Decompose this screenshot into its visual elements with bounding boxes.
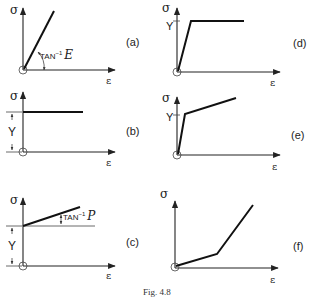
- sigma-label: σ: [160, 187, 168, 201]
- epsilon-label: ε: [270, 274, 275, 285]
- epsilon-label: ε: [106, 75, 111, 86]
- panel-label: (f): [293, 240, 303, 252]
- epsilon-label: ε: [106, 270, 111, 281]
- epsilon-label: ε: [106, 157, 111, 168]
- sigma-label: σ: [162, 91, 170, 105]
- panel-label: (b): [126, 125, 139, 137]
- yield-label: Y: [8, 125, 16, 139]
- elastic-plastic-curve: [178, 21, 244, 71]
- sigma-label: σ: [10, 89, 18, 103]
- sigma-label: σ: [162, 1, 170, 15]
- sigma-label: σ: [10, 3, 18, 17]
- panel-a: σ ε TAN−1E (a): [10, 3, 139, 86]
- tan-label: TAN−1E: [40, 48, 73, 62]
- yield-label: Y: [8, 239, 16, 253]
- sigma-label: σ: [10, 193, 18, 207]
- panel-f: σ ε (f): [160, 187, 303, 285]
- figure-caption: Fig. 4.8: [143, 287, 171, 297]
- panel-label: (e): [291, 129, 304, 141]
- panel-d: Y σ ε (d): [162, 1, 306, 88]
- panel-label: (a): [126, 36, 139, 48]
- yield-label: Y: [166, 20, 174, 32]
- panel-e: Y σ ε (e): [162, 91, 304, 172]
- stress-strain-figure: σ ε TAN−1E (a) Y σ ε (b) Y TAN−1P σ ε (c…: [0, 0, 313, 300]
- panel-label: (d): [293, 37, 306, 49]
- panel-c: Y TAN−1P σ ε (c): [6, 193, 139, 281]
- stiffening-curve: [176, 205, 253, 266]
- panel-label: (c): [126, 236, 139, 248]
- elastic-hardening-curve: [178, 98, 236, 154]
- panel-b: Y σ ε (b): [6, 89, 139, 168]
- epsilon-label: ε: [272, 161, 277, 172]
- epsilon-label: ε: [270, 77, 275, 88]
- yield-label: Y: [166, 111, 174, 123]
